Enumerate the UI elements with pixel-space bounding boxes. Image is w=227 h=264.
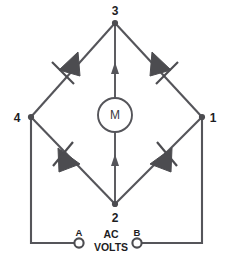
node-label-2: 2 — [112, 211, 119, 225]
ac-source-label: AC VOLTS — [94, 228, 128, 253]
node-label-3: 3 — [112, 4, 119, 18]
circuit-diagram-canvas: M — [0, 0, 227, 264]
diode-bottom-right-triangle-icon — [150, 148, 172, 172]
terminal-label-a: A — [76, 227, 83, 238]
bridge-rectifier-schematic: M — [0, 0, 227, 264]
diode-top-right — [150, 52, 178, 84]
node-label-1: 1 — [210, 111, 217, 125]
diode-bottom-left-triangle-icon — [58, 148, 80, 172]
junction-dot-node-1 — [199, 114, 205, 120]
junction-dot-node-2 — [112, 201, 118, 207]
terminal-label-b: B — [134, 227, 141, 238]
current-arrow-upper-icon — [111, 62, 119, 74]
junction-dot-node-4 — [28, 114, 34, 120]
ac-label-line1: AC — [103, 228, 119, 240]
motor-label: M — [110, 108, 120, 122]
current-arrow-lower-icon — [111, 154, 119, 166]
wire-node4-to-terminal-a — [31, 117, 74, 243]
terminal-b-circle[interactable] — [132, 238, 141, 247]
ac-label-line2: VOLTS — [94, 241, 128, 253]
motor-branch: M — [98, 23, 132, 205]
junction-dot-node-3 — [112, 20, 118, 26]
node-label-4: 4 — [14, 111, 21, 125]
terminal-a-circle[interactable] — [74, 238, 83, 247]
diode-bottom-left — [53, 142, 80, 172]
wire-node1-to-terminal-b — [142, 117, 202, 243]
